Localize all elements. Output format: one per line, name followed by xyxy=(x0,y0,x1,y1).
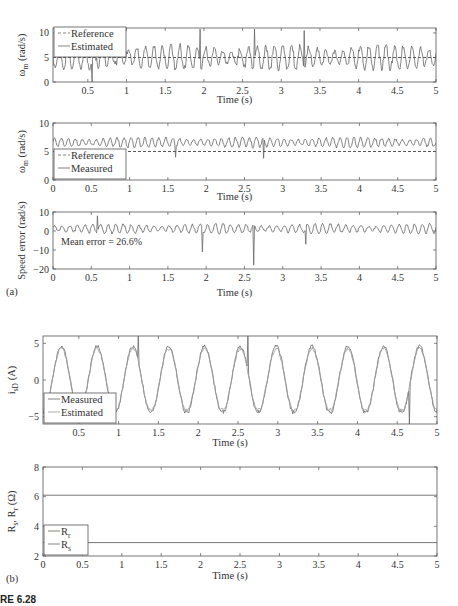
x-tick-label: 1 xyxy=(127,272,132,283)
y-axis-label: ωm (rad/s) xyxy=(16,130,30,173)
x-tick-label: 1.5 xyxy=(155,559,168,570)
x-tick-label: 4 xyxy=(357,183,362,194)
y-axis-label: ωm (rad/s) xyxy=(16,33,30,76)
x-tick-label: 3.5 xyxy=(311,427,324,438)
y-tick-label: 0 xyxy=(44,77,49,88)
x-tick-label: 0.5 xyxy=(82,85,95,96)
legend: RrRs xyxy=(44,525,88,555)
x-tick-label: 3 xyxy=(280,183,285,194)
plot-area xyxy=(43,495,437,542)
x-tick-label: 0 xyxy=(51,272,56,283)
x-tick-label: 2.5 xyxy=(234,559,247,570)
x-tick-label: 1 xyxy=(127,183,132,194)
x-tick-label: 3.5 xyxy=(313,559,326,570)
y-tick-label: 4 xyxy=(34,521,39,532)
legend-entry-estimated: Estimated xyxy=(71,41,114,52)
legend-entry-reference: Reference xyxy=(71,28,114,39)
x-tick-label: 2 xyxy=(198,559,203,570)
y-tick-label: 5 xyxy=(34,338,39,349)
legend-entry-measured: Measured xyxy=(71,163,113,174)
legend-entry-reference: Reference xyxy=(71,150,114,161)
chart-panel-a-1: 0.511.522.533.544.550510Time (s)ωm (rad/… xyxy=(16,27,439,106)
mean-error-annotation: Mean error = 26.6% xyxy=(61,236,142,247)
x-tick-label: 5 xyxy=(435,559,440,570)
x-tick-label: 1.5 xyxy=(162,272,175,283)
x-tick-label: 0.5 xyxy=(85,183,98,194)
legend-entry-measured: Measured xyxy=(61,394,103,405)
x-tick-label: 1 xyxy=(116,427,121,438)
x-tick-label: 4 xyxy=(356,85,361,96)
y-tick-label: −20 xyxy=(33,264,49,275)
y-tick-label: −5 xyxy=(28,411,39,422)
x-tick-label: 5 xyxy=(434,183,439,194)
x-axis-label: Time (s) xyxy=(217,191,253,203)
figure-caption: RE 6.28 xyxy=(0,594,37,605)
x-tick-label: 0.5 xyxy=(85,272,98,283)
x-tick-label: 4.5 xyxy=(391,183,404,194)
x-tick-label: 1 xyxy=(119,559,124,570)
x-tick-label: 4 xyxy=(356,559,361,570)
y-axis-label: isD (A) xyxy=(6,365,20,394)
x-tick-label: 2 xyxy=(196,427,201,438)
x-tick-label: 4 xyxy=(355,427,360,438)
x-tick-label: 2 xyxy=(201,85,206,96)
legend: ReferenceMeasured xyxy=(54,149,126,179)
x-tick-label: 3 xyxy=(279,85,284,96)
x-axis-label: Time (s) xyxy=(217,287,253,299)
x-tick-label: 4.5 xyxy=(391,427,404,438)
y-tick-label: 10 xyxy=(39,27,49,38)
y-axis-label: Speed error (rad/s) xyxy=(16,201,28,280)
x-axis-label: Time (s) xyxy=(217,94,253,106)
y-tick-label: 2 xyxy=(34,551,39,562)
y-tick-label: 0 xyxy=(44,175,49,186)
x-tick-label: 3 xyxy=(277,559,282,570)
x-tick-label: 1.5 xyxy=(162,183,175,194)
x-tick-label: 4.5 xyxy=(391,272,404,283)
y-tick-label: 5 xyxy=(44,146,49,157)
panel-label: (b) xyxy=(6,573,19,585)
x-tick-label: 1.5 xyxy=(152,427,165,438)
legend: ReferenceEstimated xyxy=(54,27,126,57)
x-tick-label: 5 xyxy=(435,427,440,438)
chart-panel-a-2: 00.511.522.533.544.550510Time (s)ωm (rad… xyxy=(16,118,439,204)
y-tick-label: 10 xyxy=(39,207,49,218)
x-tick-label: 1.5 xyxy=(159,85,172,96)
legend: MeasuredEstimated xyxy=(44,393,116,423)
y-tick-label: 5 xyxy=(44,52,49,63)
x-tick-label: 2.5 xyxy=(238,272,251,283)
chart-panel-b-1: 0.511.522.533.544.55−505Time (s)isD (A)M… xyxy=(6,336,440,449)
x-tick-label: 3 xyxy=(280,272,285,283)
x-tick-label: 3 xyxy=(275,427,280,438)
x-tick-label: 5 xyxy=(434,272,439,283)
y-tick-label: −10 xyxy=(33,245,49,256)
y-tick-label: 6 xyxy=(34,491,39,502)
x-axis-label: Time (s) xyxy=(212,437,248,449)
x-tick-label: 0 xyxy=(41,559,46,570)
x-tick-label: 0 xyxy=(51,183,56,194)
figure-canvas: 0.511.522.533.544.550510Time (s)ωm (rad/… xyxy=(0,0,458,606)
x-tick-label: 4.5 xyxy=(391,559,404,570)
x-tick-label: 3.5 xyxy=(315,272,328,283)
y-tick-label: 10 xyxy=(39,118,49,129)
x-tick-label: 4 xyxy=(357,272,362,283)
x-tick-label: 5 xyxy=(434,85,439,96)
x-tick-label: 1 xyxy=(124,85,129,96)
y-axis-label: Rs, Rr (Ω) xyxy=(6,490,20,533)
x-tick-label: 3.5 xyxy=(314,85,327,96)
chart-panel-b-2: 00.511.522.533.544.552468Time (s)Rs, Rr … xyxy=(6,462,440,583)
y-tick-label: 0 xyxy=(44,226,49,237)
chart-panel-a-3: 00.511.522.533.544.55−20−10010Time (s)Sp… xyxy=(16,201,439,299)
y-tick-label: 8 xyxy=(34,462,39,473)
legend-entry-estimated: Estimated xyxy=(61,407,104,418)
x-tick-label: 2 xyxy=(204,272,209,283)
panel-label: (a) xyxy=(6,286,18,298)
y-tick-label: 0 xyxy=(34,375,39,386)
x-tick-label: 0.5 xyxy=(73,427,86,438)
x-tick-label: 2 xyxy=(204,183,209,194)
x-tick-label: 3.5 xyxy=(315,183,328,194)
x-tick-label: 0.5 xyxy=(76,559,89,570)
x-tick-label: 4.5 xyxy=(391,85,404,96)
x-axis-label: Time (s) xyxy=(212,570,248,582)
